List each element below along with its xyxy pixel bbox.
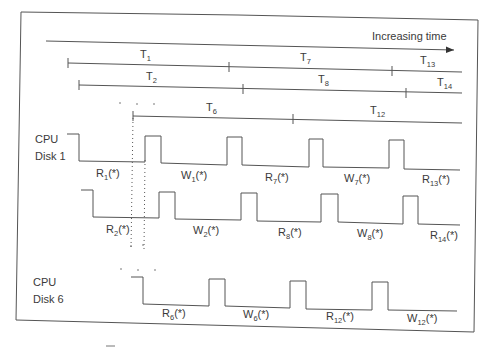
- interval-label-t13: T13: [420, 54, 435, 69]
- waveform-disk1-b: [81, 190, 460, 225]
- label-w7: W7(*): [344, 172, 370, 187]
- time-axis-arrow: [46, 41, 454, 50]
- cpu-label-group-2: CPU: [33, 276, 56, 288]
- dotted-guide-2: [144, 160, 145, 250]
- waveform-disk6: [131, 277, 457, 311]
- label-r8: R8(*): [278, 226, 302, 241]
- interval-row-2: T2 T8 T14: [79, 70, 462, 98]
- disk-label-group-2: Disk 6: [33, 293, 64, 305]
- interval-row-1: T1 T7 T13: [68, 48, 462, 76]
- label-w12: W12(*): [407, 312, 437, 327]
- diagram-frame: [16, 12, 478, 332]
- interval-label-t2: T2: [146, 70, 157, 85]
- interval-label-t14: T14: [437, 76, 452, 91]
- label-r12: R12(*): [326, 310, 354, 325]
- interval-label-t7: T7: [300, 51, 311, 66]
- interval-label-t6: T6: [206, 101, 217, 116]
- cpu-label-group-1: CPU: [35, 133, 58, 145]
- label-r14: R14(*): [430, 229, 458, 244]
- timing-diagram: Increasing time T1 T7 T13 T2 T8 T14 T6 T…: [0, 0, 491, 347]
- label-r13: R13(*): [422, 173, 450, 188]
- interval-label-t8: T8: [318, 73, 329, 88]
- label-w8: W8(*): [357, 227, 383, 242]
- interval-row-3: T6 T12: [133, 101, 462, 124]
- label-r2: R2(*): [106, 223, 130, 238]
- interval-label-t1: T1: [140, 48, 151, 63]
- disk-label-group-1: Disk 1: [35, 150, 66, 162]
- ellipsis-top: [119, 102, 155, 105]
- waveform-disk1-a: [67, 134, 460, 170]
- dotted-guide-1: [131, 118, 133, 250]
- label-w6: W6(*): [243, 308, 269, 323]
- ellipsis-bottom: [120, 244, 156, 271]
- interval-label-t12: T12: [370, 104, 385, 119]
- label-w2: W2(*): [193, 224, 219, 239]
- label-r6: R6(*): [162, 307, 186, 322]
- time-axis-label: Increasing time: [372, 30, 447, 42]
- label-r7: R7(*): [265, 171, 289, 186]
- label-w1: W1(*): [181, 169, 207, 184]
- arrowhead-icon: [446, 47, 454, 54]
- label-r1: R1(*): [96, 167, 120, 182]
